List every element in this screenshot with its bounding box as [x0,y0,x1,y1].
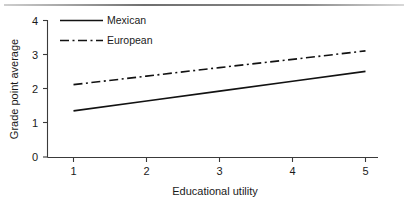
y-axis-tick-labels: 4 3 2 1 0 [32,15,38,164]
series-line-mexican [74,71,366,111]
legend-entry-european: European [60,34,153,46]
y-tick-label-1: 1 [32,117,38,129]
line-chart: 4 3 2 1 0 1 2 3 4 5 Educational utility … [0,0,410,212]
legend-entry-mexican: Mexican [60,14,146,26]
x-axis-tick-labels: 1 2 3 4 5 [70,165,368,177]
y-axis-title: Grade point average [8,39,20,139]
chart-figure: 4 3 2 1 0 1 2 3 4 5 Educational utility … [0,0,410,212]
y-tick-label-3: 3 [32,49,38,61]
x-tick-label-4: 4 [289,165,295,177]
y-tick-label-2: 2 [32,83,38,95]
y-axis-ticks [43,21,48,158]
x-tick-label-2: 2 [143,165,149,177]
legend-label-european: European [107,34,153,46]
x-axis-ticks [74,158,366,163]
series-line-european [74,51,366,85]
x-tick-label-1: 1 [70,165,76,177]
chart-legend: Mexican European [60,14,153,46]
x-tick-label-5: 5 [362,165,368,177]
legend-label-mexican: Mexican [107,14,146,26]
x-axis-title: Educational utility [172,185,258,197]
x-tick-label-3: 3 [216,165,222,177]
y-tick-label-4: 4 [32,15,38,27]
y-tick-label-0: 0 [32,151,38,163]
